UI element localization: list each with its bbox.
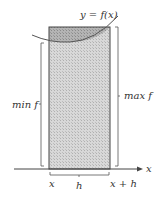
x-tick-label: x [49,178,55,189]
curve-label: y = f(x) [79,9,118,20]
min-rectangle [49,27,110,169]
h-bracket [50,172,109,175]
diagram: y = f(x) min f max f x x h x + h [0,0,161,200]
diagram-svg: y = f(x) min f max f x x h x + h [0,0,161,200]
x-plus-h-label: x + h [110,178,137,189]
min-f-label: min f [12,99,40,110]
x-axis-arrow-icon [137,167,143,172]
max-f-bracket [115,27,118,166]
max-f-label: max f [124,90,154,101]
x-axis-label: x [146,163,152,174]
h-label: h [76,180,82,191]
min-f-bracket [41,43,44,166]
